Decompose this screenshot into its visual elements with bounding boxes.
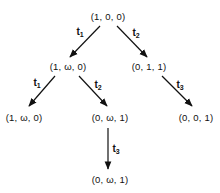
transition-index: 2 [136,32,140,39]
transition-index: 2 [98,84,102,91]
transition-label: t1 [33,77,40,89]
transition-label: t1 [76,26,83,38]
edge-arrow-n1-n4 [79,76,107,106]
transition-index: 3 [180,84,184,91]
tree-node-n2: (0, 1, 1) [132,61,167,72]
edge-arrow-n0-n1 [70,26,100,57]
transition-label: t2 [94,79,101,91]
tree-node-n6: (0, ω, 1) [92,174,129,185]
transition-label: t3 [176,79,183,91]
tree-node-n0: (1, 0, 0) [91,11,126,22]
transition-label: t3 [112,143,119,155]
transition-index: 3 [116,148,120,155]
tree-node-n5: (0, 0, 1) [179,112,214,123]
tree-node-n4: (0, ω, 1) [92,112,129,123]
edges-layer [0,0,220,193]
tree-node-n1: (1, ω, 0) [50,61,87,72]
transition-label: t2 [132,27,139,39]
transition-index: 1 [80,31,84,38]
tree-node-n3: (1, ω, 0) [6,112,43,123]
transition-index: 1 [37,82,41,89]
